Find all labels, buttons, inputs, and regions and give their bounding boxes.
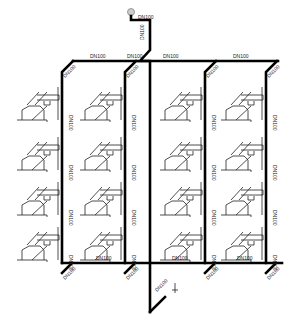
label-top-main-2: DN100 (127, 53, 143, 59)
riser-size-label: DN100 (211, 115, 217, 131)
riser-size-label: DN100 (131, 210, 137, 226)
vent-cap-icon (128, 9, 135, 16)
label-top-main-3: DN100 (163, 53, 179, 59)
riser-top-label: DN100 (61, 63, 76, 78)
label-bottom-main-2: DN100 (172, 255, 188, 261)
riser-size-label: DN100 (68, 165, 74, 181)
label-bottom-main-1: DN100 (96, 255, 112, 261)
riser-bottom-label: DN100 (61, 265, 76, 280)
riser-size-label: DN100 (68, 210, 74, 226)
riser-size-label: DN100 (211, 165, 217, 181)
cleanout-icon (172, 283, 178, 293)
riser-size-label: DN100 (131, 165, 137, 181)
riser-size-label: DN100 (211, 210, 217, 226)
fixture-groups (17, 87, 263, 262)
riser-size-label: DN100 (131, 115, 137, 131)
label-bottom-main-3: DN100 (237, 255, 253, 261)
riser-bottom-label: DN100 (204, 265, 219, 280)
piping-diagram: DN100 DN100 DN100 DN100 DN100 DN100 DN10… (0, 0, 296, 324)
label-top-vent: DN100 (138, 14, 154, 20)
riser-bottom-label: DN100 (124, 265, 139, 280)
riser-1 (62, 61, 73, 263)
riser-2 (125, 61, 136, 263)
riser-top-label: DN100 (265, 63, 280, 78)
label-top-main-4: DN100 (233, 53, 249, 59)
label-outlet: DN100 (153, 277, 168, 292)
riser-4 (266, 61, 277, 263)
riser-size-label: DN100 (68, 115, 74, 131)
label-top-main-1: DN100 (90, 53, 106, 59)
label-top-riser: DN100 (139, 24, 145, 40)
riser-top-label: DN100 (124, 63, 139, 78)
riser-size-label: DN100 (272, 165, 278, 181)
riser-3 (205, 61, 216, 263)
riser-size-label: DN100 (272, 115, 278, 131)
riser-size-label: DN100 (272, 210, 278, 226)
outlet-pipe (150, 297, 165, 312)
riser-bottom-label: DN100 (265, 265, 280, 280)
riser-top-label: DN100 (204, 63, 219, 78)
